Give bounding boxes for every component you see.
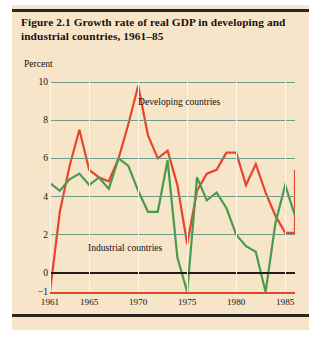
developing-countries-label: Developing countries — [138, 96, 220, 107]
x-tick-1985: 1985 — [265, 297, 305, 307]
y-tick--1: −1 — [22, 287, 48, 297]
y-axis-label: Percent — [24, 58, 53, 69]
axis-baseline — [50, 292, 295, 294]
y-tick-6: 6 — [22, 153, 48, 163]
y-tick-10: 10 — [22, 77, 48, 87]
gridline-y-2 — [50, 234, 295, 235]
gridline-x-1985 — [285, 82, 286, 292]
gridline-x-1961 — [50, 82, 51, 292]
gridline-y-10 — [50, 82, 295, 83]
gridline-x-1980 — [236, 82, 237, 292]
y-tick-2: 2 — [22, 230, 48, 240]
y-axis-tick-labels: 1086420−1 — [22, 82, 48, 292]
industrial-countries-label: Industrial countries — [88, 242, 162, 253]
gridline-x-1965 — [89, 82, 90, 292]
x-tick-1965: 1965 — [69, 297, 109, 307]
x-tick-1980: 1980 — [216, 297, 256, 307]
y-tick-4: 4 — [22, 192, 48, 202]
chart-svg — [50, 82, 295, 292]
y-tick-8: 8 — [22, 115, 48, 125]
figure-container: Figure 2.1 Growth rate of real GDP in de… — [0, 0, 321, 338]
figure-title: Figure 2.1 Growth rate of real GDP in de… — [21, 15, 291, 43]
bottom-rule — [12, 314, 309, 317]
x-axis-tick-labels: 196119651970197519801985 — [50, 297, 295, 311]
x-tick-1961: 1961 — [30, 297, 70, 307]
x-tick-1970: 1970 — [118, 297, 158, 307]
gridline-x-1970 — [138, 82, 139, 292]
x-tick-1975: 1975 — [167, 297, 207, 307]
top-rule — [12, 9, 309, 12]
gridline-x-1975 — [187, 82, 188, 292]
gridline-y-8 — [50, 120, 295, 121]
gridline-y-6 — [50, 158, 295, 159]
zero-line — [50, 272, 295, 273]
plot-area — [50, 82, 295, 292]
gridline-y-4 — [50, 196, 295, 197]
y-tick-0: 0 — [22, 268, 48, 278]
